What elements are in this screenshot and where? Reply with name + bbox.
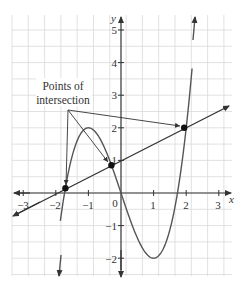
x-tick-labels: −3 −2 −1 0 1 2 3	[17, 197, 221, 211]
svg-text:3: 3	[215, 199, 221, 211]
svg-text:3: 3	[112, 89, 118, 101]
svg-text:2: 2	[112, 122, 118, 134]
intersection-point	[108, 162, 114, 168]
svg-text:−1: −1	[105, 220, 117, 232]
svg-text:intersection: intersection	[36, 94, 90, 106]
svg-text:4: 4	[112, 57, 118, 69]
svg-text:0: 0	[112, 197, 118, 209]
intersection-point	[62, 185, 68, 191]
svg-text:−1: −1	[82, 199, 94, 211]
function-graph: −3 −2 −1 0 1 2 3 −2 −1 1 2 3 4 5 x y Poi…	[0, 0, 242, 283]
annotation-label: Points of intersection	[36, 78, 92, 106]
y-axis-label: y	[110, 12, 116, 24]
grid	[12, 15, 232, 276]
svg-text:2: 2	[183, 199, 189, 211]
svg-text:−2: −2	[49, 199, 61, 211]
x-axis-label: x	[228, 193, 234, 205]
svg-text:5: 5	[112, 24, 118, 36]
svg-text:1: 1	[150, 199, 156, 211]
annotation-arrows	[66, 110, 180, 185]
svg-text:Points of: Points of	[42, 80, 83, 92]
intersection-point	[181, 125, 187, 131]
svg-text:−2: −2	[105, 253, 117, 265]
